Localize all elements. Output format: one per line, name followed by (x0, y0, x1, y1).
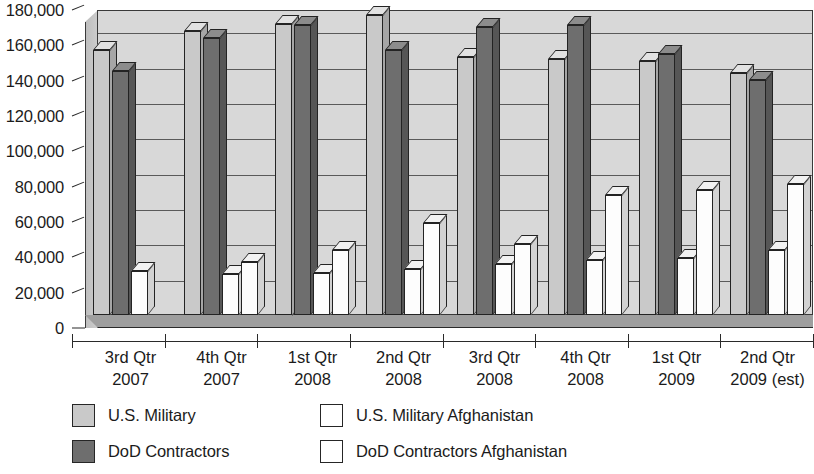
bar-face (605, 195, 622, 315)
x-label-quarter: 3rd Qtr (469, 348, 520, 366)
bar-dark (385, 50, 402, 315)
x-axis-labels: 3rd Qtr20074th Qtr20071st Qtr20082nd Qtr… (85, 346, 813, 398)
bar-group (631, 10, 722, 315)
x-label-quarter: 4th Qtr (560, 348, 610, 366)
bar-face (203, 38, 220, 315)
bar-light (457, 57, 474, 315)
legend-label: U.S. Military Afghanistan (356, 406, 533, 425)
bar-face (476, 27, 493, 315)
bar-face (639, 61, 656, 315)
bar-white1 (222, 274, 239, 315)
bar-face (677, 258, 694, 315)
legend-label: DoD Contractors (108, 442, 229, 461)
y-axis: 020,00040,00060,00080,000100,000120,0001… (0, 0, 72, 340)
bar-side (440, 214, 447, 315)
y-tick-mark (72, 217, 84, 223)
bar-face (457, 57, 474, 315)
bar-light (639, 61, 656, 315)
bar-face (658, 54, 675, 315)
bar-dark (294, 25, 311, 315)
y-tick-label: 120,000 (6, 107, 64, 126)
bar-white1 (677, 258, 694, 315)
bar-face (131, 271, 148, 315)
bar-dark (203, 38, 220, 315)
legend-swatch-icon (320, 440, 343, 463)
x-tick-mark (72, 334, 73, 348)
bar-group (85, 10, 176, 315)
bar-face (586, 260, 603, 315)
x-axis-category-label: 2nd Qtr2009 (est) (712, 346, 814, 390)
x-label-quarter: 4th Qtr (196, 348, 246, 366)
bar-white1 (404, 269, 421, 315)
bar-group (176, 10, 267, 315)
bar-white1 (131, 271, 148, 315)
bar-white2 (605, 195, 622, 315)
legend-dod-contractors[interactable]: DoD Contractors (72, 440, 229, 463)
bar-group (449, 10, 540, 315)
bar-face (313, 273, 330, 315)
bar-side (349, 241, 356, 315)
y-tick-mark (72, 111, 84, 117)
bar-light (275, 24, 292, 316)
bar-group (358, 10, 449, 315)
bar-side (713, 181, 720, 315)
y-tick-mark (72, 287, 84, 293)
bar-face (749, 80, 766, 315)
bar-side (622, 186, 629, 315)
bar-face (222, 274, 239, 315)
bar-face (332, 250, 349, 315)
x-label-quarter: 2nd Qtr (740, 348, 795, 366)
bar-face (423, 223, 440, 315)
bar-white2 (514, 244, 531, 315)
y-tick-mark (72, 5, 84, 11)
bar-group (540, 10, 631, 315)
bar-light (366, 15, 383, 315)
bar-light (548, 59, 565, 315)
bar-group (722, 10, 813, 315)
y-tick-label: 60,000 (15, 213, 64, 232)
bar-white1 (768, 250, 785, 315)
legend-us-military-afghanistan[interactable]: U.S. Military Afghanistan (320, 404, 533, 427)
y-tick-mark (72, 181, 84, 187)
x-label-quarter: 1st Qtr (652, 348, 702, 366)
y-tick-mark (72, 252, 84, 258)
legend-swatch-icon (72, 440, 95, 463)
y-tick-mark (72, 328, 85, 329)
bar-white2 (787, 184, 804, 315)
legend-swatch-icon (320, 404, 343, 427)
legend-us-military[interactable]: U.S. Military (72, 404, 196, 427)
y-tick-label: 160,000 (6, 36, 64, 55)
legend-label: U.S. Military (108, 406, 196, 425)
bar-group (267, 10, 358, 315)
bar-face (93, 50, 110, 315)
bar-light (93, 50, 110, 315)
bar-face (768, 250, 785, 315)
y-tick-label: 0 (55, 319, 64, 338)
bar-face (404, 269, 421, 315)
bar-face (514, 244, 531, 315)
bar-dark (112, 71, 129, 315)
bar-light (184, 31, 201, 315)
bar-face (730, 73, 747, 315)
bar-face (294, 25, 311, 315)
bar-face (385, 50, 402, 315)
bar-dark (476, 27, 493, 315)
y-tick-mark (72, 75, 84, 81)
y-tick-label: 180,000 (6, 1, 64, 20)
legend-label: DoD Contractors Afghanistan (356, 442, 567, 461)
y-tick-label: 100,000 (6, 142, 64, 161)
bar-dark (749, 80, 766, 315)
bar-dark (567, 25, 584, 315)
bar-white1 (586, 260, 603, 315)
bar-face (112, 71, 129, 315)
bar-side (531, 235, 538, 315)
legend-dod-contractors-afghanistan[interactable]: DoD Contractors Afghanistan (320, 440, 567, 463)
y-tick-label: 20,000 (15, 283, 64, 302)
bar-light (730, 73, 747, 315)
y-tick-mark (72, 40, 84, 46)
y-tick-label: 140,000 (6, 71, 64, 90)
bar-white2 (332, 250, 349, 315)
y-tick-label: 80,000 (15, 177, 64, 196)
bar-face (548, 59, 565, 315)
bar-side (258, 253, 265, 315)
